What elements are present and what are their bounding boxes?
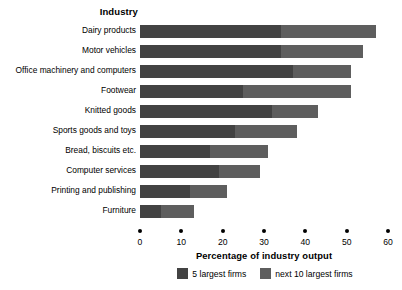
bar-segment — [190, 185, 227, 198]
x-axis: 0102030405060 — [0, 226, 402, 252]
x-axis-tick-mark — [262, 229, 266, 233]
bar-category-label: Sports goods and toys — [0, 125, 136, 136]
bar-category-label: Bread, biscuits etc. — [0, 145, 136, 156]
x-axis-tick-label: 0 — [125, 237, 155, 247]
bar-segment — [281, 45, 364, 58]
bar-row: Footwear — [0, 82, 402, 102]
x-axis-tick-mark — [386, 229, 390, 233]
stacked-bar-chart: Industry Dairy productsMotor vehiclesOff… — [0, 0, 402, 290]
bar-row: Printing and publishing — [0, 182, 402, 202]
bar-segment — [140, 25, 281, 38]
x-axis-tick-mark — [345, 229, 349, 233]
bar-segment — [243, 85, 350, 98]
bar-segment — [272, 105, 317, 118]
bar-category-label: Furniture — [0, 205, 136, 216]
bar-segment — [219, 165, 260, 178]
bar-track — [140, 85, 402, 98]
x-axis-tick-label: 10 — [166, 237, 196, 247]
bar-segment — [293, 65, 351, 78]
legend-color-swatch — [177, 268, 188, 279]
bar-track — [140, 205, 402, 218]
bar-category-label: Knitted goods — [0, 105, 136, 116]
category-axis-title: Industry — [0, 6, 138, 17]
x-axis-tick-label: 20 — [208, 237, 238, 247]
bar-track — [140, 145, 402, 158]
bar-segment — [140, 125, 235, 138]
bar-segment — [140, 165, 219, 178]
chart-legend: 5 largest firmsnext 10 largest firms — [140, 268, 390, 279]
bar-category-label: Office machinery and computers — [0, 65, 136, 76]
bar-category-label: Computer services — [0, 165, 136, 176]
bar-track — [140, 105, 402, 118]
bar-track — [140, 25, 402, 38]
x-axis-label: Percentage of industry output — [140, 250, 388, 261]
bar-track — [140, 125, 402, 138]
x-axis-tick-label: 60 — [373, 237, 402, 247]
bar-segment — [140, 65, 293, 78]
bar-category-label: Dairy products — [0, 25, 136, 36]
legend-label: next 10 largest firms — [275, 269, 352, 279]
bar-segment — [235, 125, 297, 138]
legend-item: next 10 largest firms — [260, 268, 352, 279]
x-axis-tick-label: 50 — [332, 237, 362, 247]
x-axis-tick-label: 30 — [249, 237, 279, 247]
x-axis-tick-mark — [179, 229, 183, 233]
x-axis-tick-mark — [138, 229, 142, 233]
bar-row: Bread, biscuits etc. — [0, 142, 402, 162]
bar-segment — [140, 205, 161, 218]
bar-segment — [140, 85, 243, 98]
bar-segment — [161, 205, 194, 218]
legend-color-swatch — [260, 268, 271, 279]
bar-row: Knitted goods — [0, 102, 402, 122]
bar-segment — [210, 145, 268, 158]
bar-category-label: Motor vehicles — [0, 45, 136, 56]
bar-row: Office machinery and computers — [0, 62, 402, 82]
x-axis-tick-label: 40 — [290, 237, 320, 247]
x-axis-tick-mark — [303, 229, 307, 233]
bar-segment — [140, 185, 190, 198]
bar-category-label: Printing and publishing — [0, 185, 136, 196]
x-axis-tick-mark — [221, 229, 225, 233]
bar-row: Computer services — [0, 162, 402, 182]
bar-segment — [140, 105, 272, 118]
bar-track — [140, 165, 402, 178]
bar-track — [140, 45, 402, 58]
bar-row: Dairy products — [0, 22, 402, 42]
bar-segment — [140, 45, 281, 58]
bar-track — [140, 65, 402, 78]
bar-segment — [140, 145, 210, 158]
legend-label: 5 largest firms — [192, 269, 246, 279]
bar-category-label: Footwear — [0, 85, 136, 96]
bar-rows: Dairy productsMotor vehiclesOffice machi… — [0, 22, 402, 222]
bar-track — [140, 185, 402, 198]
bar-row: Motor vehicles — [0, 42, 402, 62]
bar-segment — [281, 25, 376, 38]
bar-row: Sports goods and toys — [0, 122, 402, 142]
bar-row: Furniture — [0, 202, 402, 222]
legend-item: 5 largest firms — [177, 268, 246, 279]
